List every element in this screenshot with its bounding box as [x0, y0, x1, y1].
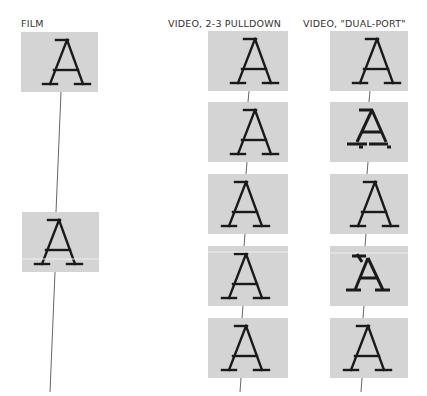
pulldown-frame-1	[208, 31, 288, 91]
pulldown-frame-4	[208, 246, 288, 306]
pulldown-frame-5	[208, 318, 288, 378]
pulldown-column-label: VIDEO, 2-3 PULLDOWN	[168, 18, 281, 29]
dualport-column-label: VIDEO, "DUAL-PORT"	[303, 18, 406, 29]
pulldown-frame-2	[208, 102, 288, 162]
film-frame-2	[22, 212, 99, 272]
film-column-label: FILM	[21, 18, 44, 29]
dualport-frame-2-interlaced	[330, 102, 408, 162]
pulldown-frame-3	[208, 174, 288, 234]
dualport-frame-4-interlaced	[330, 246, 408, 306]
dualport-frame-3	[330, 174, 408, 234]
dualport-frame-1	[330, 31, 408, 91]
film-frame-1	[21, 32, 98, 92]
dualport-frame-5	[330, 318, 408, 378]
